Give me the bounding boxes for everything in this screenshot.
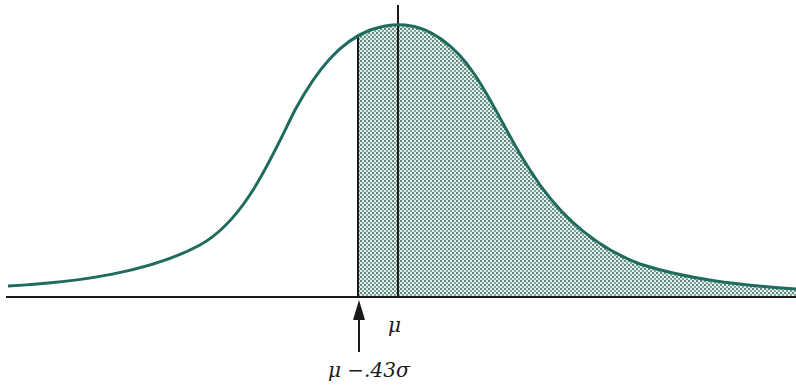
threshold-label: μ −.43σ [328,358,410,382]
mean-label: μ [388,313,401,337]
shaded-region [8,25,796,297]
arrow-up-icon [353,300,365,320]
